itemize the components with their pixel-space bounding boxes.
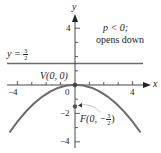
parabola-figure: y x −4 0 4 4 −2 −4 p < 0; opens down y =…: [0, 0, 161, 153]
x-tick-label-pos4: 4: [130, 88, 135, 97]
plot-canvas: [0, 0, 161, 153]
focus-label-prefix: F(0, −: [80, 113, 106, 124]
directrix-fraction: 3 2: [23, 48, 28, 61]
directrix-label-lhs: y =: [7, 48, 21, 59]
focus-label: F(0, − 3 2 ): [80, 113, 115, 126]
y-tick-label-neg2: −2: [60, 109, 70, 118]
focus-label-suffix: ): [111, 113, 114, 124]
y-axis-label: y: [72, 2, 76, 12]
directrix-frac-num: 3: [23, 48, 28, 55]
x-axis-arrow-icon: [143, 82, 151, 88]
y-tick-label-pos4: 4: [66, 24, 71, 33]
annotation-p-negative: p < 0;: [103, 23, 128, 33]
directrix-frac-den: 2: [23, 55, 28, 61]
focus-point: [73, 104, 77, 108]
annotation-opens-down: opens down: [96, 35, 144, 45]
directrix-label: y = 3 2: [7, 48, 28, 61]
x-axis-label: x: [153, 79, 157, 89]
x-tick-label-neg4: −4: [8, 88, 18, 97]
focus-pointer-arrow: [80, 105, 100, 112]
y-axis-arrow-icon: [72, 14, 78, 22]
x-tick-label-zero: 0: [65, 88, 70, 97]
vertex-point: [73, 83, 77, 87]
y-tick-label-neg4: −4: [60, 137, 70, 146]
vertex-label: V(0, 0): [40, 71, 68, 81]
arrowhead-icon: [78, 103, 82, 108]
